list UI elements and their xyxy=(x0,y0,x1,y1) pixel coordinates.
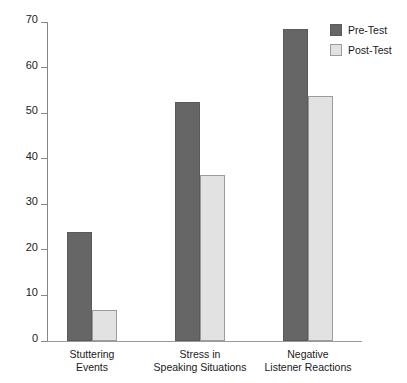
x-axis-category-label: Stuttering Events xyxy=(32,348,152,374)
y-axis-tick-label: 70 xyxy=(26,14,38,25)
plot-area xyxy=(47,22,337,341)
legend-swatch-post-test-icon xyxy=(330,44,342,56)
y-axis-tick-label: 20 xyxy=(26,242,38,253)
bar-post-test xyxy=(200,175,225,341)
y-axis-tick-label: 60 xyxy=(26,60,38,71)
x-axis-line xyxy=(47,341,362,342)
x-axis-category-label: Stress in Speaking Situations xyxy=(140,348,260,374)
bar-post-test xyxy=(308,96,333,341)
bar-pre-test xyxy=(67,232,92,341)
bar-pre-test xyxy=(175,102,200,341)
y-axis-tick-label: 0 xyxy=(32,333,38,344)
bar-post-test xyxy=(92,310,117,341)
y-axis-tick-label: 50 xyxy=(26,105,38,116)
legend-label-pre-test: Pre-Test xyxy=(348,24,387,36)
legend-label-post-test: Post-Test xyxy=(348,44,392,56)
y-axis-tick-label: 40 xyxy=(26,151,38,162)
y-axis-tick-label: 30 xyxy=(26,196,38,207)
legend-swatch-pre-test-icon xyxy=(330,24,342,36)
legend-item-post-test: Post-Test xyxy=(330,40,392,60)
chart-legend: Pre-Test Post-Test xyxy=(330,20,392,60)
y-axis-tick-label: 10 xyxy=(26,287,38,298)
x-axis-category-label: Negative Listener Reactions xyxy=(248,348,368,374)
legend-item-pre-test: Pre-Test xyxy=(330,20,392,40)
bar-pre-test xyxy=(283,29,308,341)
bar-chart-figure: 010203040506070 Stuttering EventsStress … xyxy=(0,0,407,383)
